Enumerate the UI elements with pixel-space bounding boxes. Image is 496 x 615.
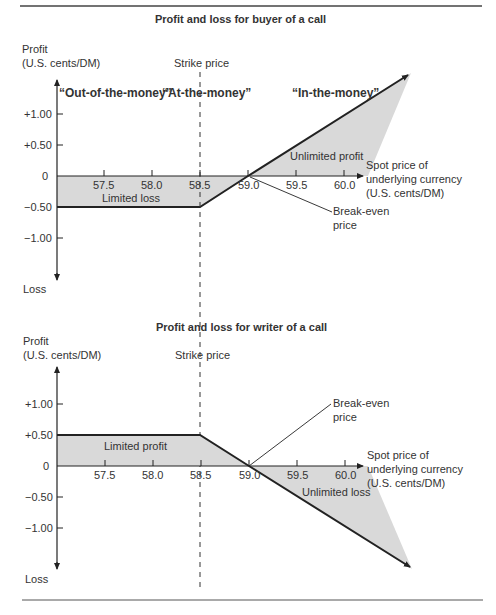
break-even-label-1: Break-even	[333, 397, 389, 410]
x-tick: 59.5	[287, 469, 308, 482]
y-axis-label: Profit	[22, 43, 48, 56]
x-tick: 58.5	[189, 179, 210, 192]
unlimited-profit-label: Unlimited profit	[290, 150, 363, 163]
buyer-chart	[57, 73, 411, 280]
y-tick: +0.50	[25, 429, 53, 442]
y-tick: −0.50	[25, 491, 53, 504]
y-tick: 0	[42, 170, 48, 183]
x-tick: 58.5	[190, 469, 211, 482]
y-tick: 0	[43, 460, 49, 473]
limited-loss-label: Limited loss	[102, 192, 160, 205]
y-axis-label: Profit	[23, 335, 49, 348]
x-tick: 60.0	[335, 469, 356, 482]
break-even-label-1: Break-even	[333, 205, 389, 218]
y-axis-unit: (U.S. cents/DM)	[22, 57, 100, 70]
x-tick: 60.0	[334, 179, 355, 192]
x-axis-label-1: Spot price of	[367, 449, 429, 462]
x-tick: 59.5	[286, 179, 307, 192]
x-tick: 59.0	[239, 469, 260, 482]
x-tick: 57.5	[93, 179, 114, 192]
loss-label: Loss	[23, 283, 46, 296]
y-tick: +1.00	[24, 108, 52, 121]
y-tick: +0.50	[24, 139, 52, 152]
otm-label: “Out-of-the-money”	[59, 87, 172, 100]
break-even-label-2: price	[333, 411, 357, 424]
chart-title: Profit and loss for buyer of a call	[155, 13, 326, 26]
x-tick: 57.5	[94, 469, 115, 482]
y-axis-unit: (U.S. cents/DM)	[23, 349, 101, 362]
x-tick: 58.0	[141, 179, 162, 192]
x-axis-label-2: underlying currency	[367, 463, 463, 476]
itm-label: “In-the-money”	[292, 87, 379, 100]
break-even-leader	[249, 404, 331, 466]
y-tick: +1.00	[25, 398, 53, 411]
strike-price-label: Strike price	[174, 57, 229, 70]
x-tick: 58.0	[142, 469, 163, 482]
y-tick: −1.00	[24, 232, 52, 245]
x-axis-label-2: underlying currency	[366, 173, 462, 186]
limited-profit-label: Limited profit	[104, 440, 167, 453]
loss-label: Loss	[25, 573, 48, 586]
x-tick: 59.0	[238, 179, 259, 192]
y-tick: −0.50	[24, 201, 52, 214]
strike-price-label: Strike price	[175, 349, 230, 362]
y-tick: −1.00	[25, 522, 53, 535]
unlimited-loss-label: Unlimited loss	[302, 486, 370, 499]
chart-title: Profit and loss for writer of a call	[156, 321, 327, 334]
x-axis-label-3: (U.S. cents/DM)	[366, 187, 444, 200]
x-axis-label-3: (U.S. cents/DM)	[367, 477, 445, 490]
x-axis-label-1: Spot price of	[366, 159, 428, 172]
atm-label: “At-the-money”	[162, 87, 251, 100]
break-even-label-2: price	[333, 219, 357, 232]
